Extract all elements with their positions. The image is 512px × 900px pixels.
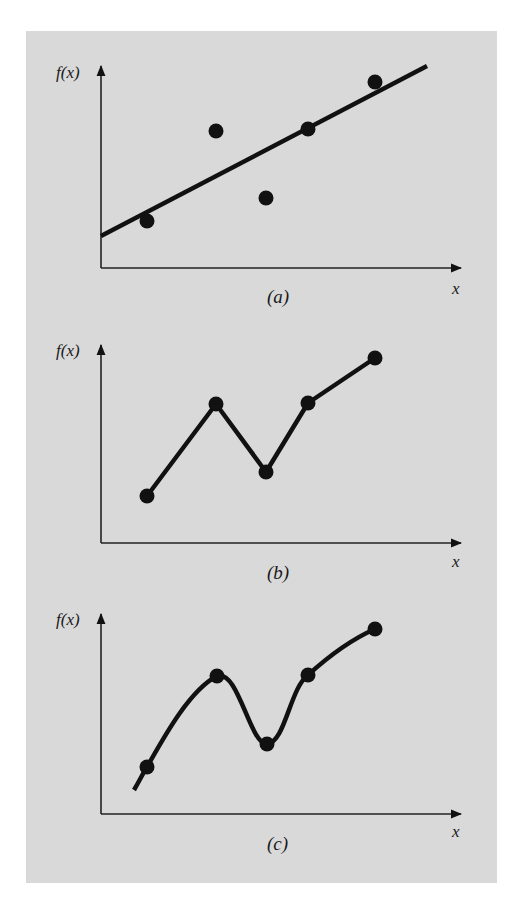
data-point bbox=[301, 396, 316, 411]
chart-b-y-axis-label: f(x) bbox=[56, 342, 80, 359]
chart-a bbox=[101, 66, 461, 268]
chart-a-y-axis-label: f(x) bbox=[56, 64, 80, 81]
chart-c-smooth-curve bbox=[134, 629, 375, 790]
data-point bbox=[140, 214, 155, 229]
chart-b-caption: (b) bbox=[267, 563, 289, 582]
chart-c-x-axis-label: x bbox=[452, 823, 460, 840]
data-point bbox=[209, 124, 224, 139]
data-point bbox=[209, 397, 224, 412]
data-point bbox=[368, 351, 383, 366]
figure-svg bbox=[0, 0, 512, 900]
data-point bbox=[259, 465, 274, 480]
data-point bbox=[210, 669, 225, 684]
chart-c bbox=[101, 614, 461, 814]
data-point bbox=[140, 489, 155, 504]
chart-a-caption: (a) bbox=[267, 287, 289, 306]
chart-c-y-axis-label: f(x) bbox=[56, 611, 80, 628]
data-point bbox=[368, 622, 383, 637]
data-point bbox=[260, 737, 275, 752]
data-point bbox=[259, 191, 274, 206]
figure-page: f(x) x (a) f(x) x (b) f(x) x (c) bbox=[0, 0, 512, 900]
chart-a-x-axis-label: x bbox=[452, 280, 460, 297]
chart-b-x-axis-label: x bbox=[452, 553, 460, 570]
chart-c-caption: (c) bbox=[267, 834, 288, 853]
data-point bbox=[301, 122, 316, 137]
chart-a-regression-line bbox=[101, 66, 427, 236]
data-point bbox=[301, 668, 316, 683]
data-point bbox=[368, 75, 383, 90]
chart-b bbox=[101, 345, 461, 543]
data-point bbox=[140, 760, 155, 775]
chart-b-data-points bbox=[140, 351, 383, 504]
